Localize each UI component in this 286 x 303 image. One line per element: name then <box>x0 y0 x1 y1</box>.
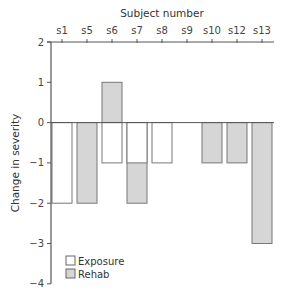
y-tick-label: −4 <box>29 278 44 289</box>
bar-exposure-s8 <box>152 123 172 163</box>
legend-swatch-rehab <box>66 269 75 278</box>
bar-rehab-s13 <box>252 123 272 244</box>
y-tick-label: 0 <box>38 117 44 128</box>
legend-swatch-exposure <box>66 256 75 265</box>
y-tick-label: −3 <box>29 238 44 249</box>
bar-rehab-s6 <box>102 82 122 122</box>
bar-exposure-s1 <box>52 123 72 204</box>
legend: Exposure Rehab <box>66 256 124 280</box>
x-tick-label: s7 <box>131 25 143 36</box>
x-axis-title: Subject number <box>120 7 204 19</box>
y-tick-label: −1 <box>29 157 44 168</box>
x-tick-label: s8 <box>156 25 168 36</box>
x-tick-label: s9 <box>181 25 193 36</box>
x-tick-label: s5 <box>81 25 93 36</box>
bar-exposure-s6 <box>102 123 122 163</box>
bar-exposure-s7 <box>127 123 147 163</box>
bar-chart: 210−1−2−3−4s1s5s6s7s8s9s10s12s13 Subject… <box>0 0 286 303</box>
legend-label-exposure: Exposure <box>78 256 124 267</box>
y-axis-title: Change in severity <box>9 114 21 213</box>
x-tick-label: s6 <box>106 25 118 36</box>
y-tick-label: 2 <box>38 37 44 48</box>
x-tick-label: s12 <box>228 25 246 36</box>
bar-rehab-s10 <box>202 123 222 163</box>
y-tick-label: 1 <box>38 77 44 88</box>
x-tick-label: s1 <box>56 25 68 36</box>
y-tick-label: −2 <box>29 198 44 209</box>
bar-rehab-s5 <box>77 123 97 204</box>
legend-label-rehab: Rehab <box>78 269 109 280</box>
x-tick-label: s13 <box>253 25 271 36</box>
bars-group <box>52 82 272 243</box>
bar-rehab-s12 <box>227 123 247 163</box>
x-tick-label: s10 <box>203 25 221 36</box>
